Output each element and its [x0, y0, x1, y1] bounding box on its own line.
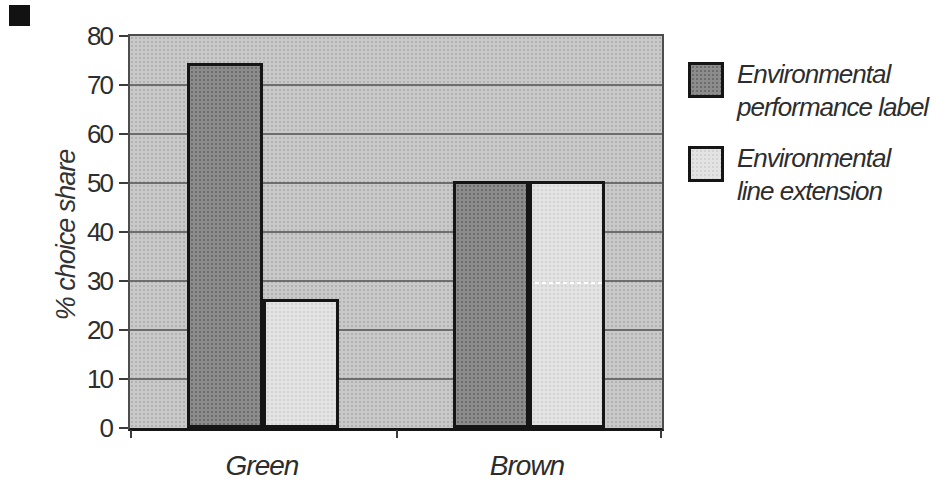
plot-area	[130, 36, 662, 428]
x-tick-mark	[130, 430, 132, 438]
x-tick-mark	[660, 430, 662, 438]
legend-entry-performance-label: Environmental performance label	[688, 58, 928, 124]
legend-label-line: Environmental	[737, 142, 890, 175]
legend-label-line: line extension	[737, 175, 890, 208]
y-tick-mark	[119, 231, 128, 233]
bar-brown-light	[529, 181, 605, 428]
y-tick-label-0: 0	[0, 413, 112, 443]
y-tick-mark	[119, 427, 128, 429]
legend-label-line: performance label	[737, 91, 928, 124]
y-tick-label-60: 60	[0, 119, 112, 149]
y-tick-label-70: 70	[0, 70, 112, 100]
legend-swatch-light-icon	[688, 146, 724, 182]
bar-green-light	[263, 299, 339, 428]
x-tick-mark	[396, 430, 398, 438]
y-tick-mark	[119, 84, 128, 86]
y-tick-label-30: 30	[0, 266, 112, 296]
y-tick-label-50: 50	[0, 168, 112, 198]
y-tick-mark	[119, 35, 128, 37]
legend-label: Environmental performance label	[737, 58, 928, 124]
scan-artifact-line	[535, 282, 603, 284]
bar-green-dark	[187, 63, 263, 428]
y-tick-mark	[119, 329, 128, 331]
y-tick-label-40: 40	[0, 217, 112, 247]
bar-chart-figure: % choice share 01020304050607080 Green B…	[0, 0, 935, 502]
y-tick-mark	[119, 280, 128, 282]
y-tick-label-80: 80	[0, 21, 112, 51]
y-tick-mark	[119, 182, 128, 184]
y-tick-mark	[119, 133, 128, 135]
legend-swatch-dark-icon	[688, 62, 724, 98]
y-tick-label-20: 20	[0, 315, 112, 345]
legend-label: Environmental line extension	[737, 142, 890, 208]
x-category-label-brown: Brown	[447, 450, 607, 482]
bar-brown-dark	[453, 181, 529, 428]
y-tick-mark	[119, 378, 128, 380]
legend-entry-line-extension: Environmental line extension	[688, 142, 928, 208]
y-tick-label-10: 10	[0, 364, 112, 394]
x-category-label-green: Green	[182, 450, 342, 482]
legend-label-line: Environmental	[737, 58, 928, 91]
legend: Environmental performance label Environm…	[688, 58, 928, 226]
